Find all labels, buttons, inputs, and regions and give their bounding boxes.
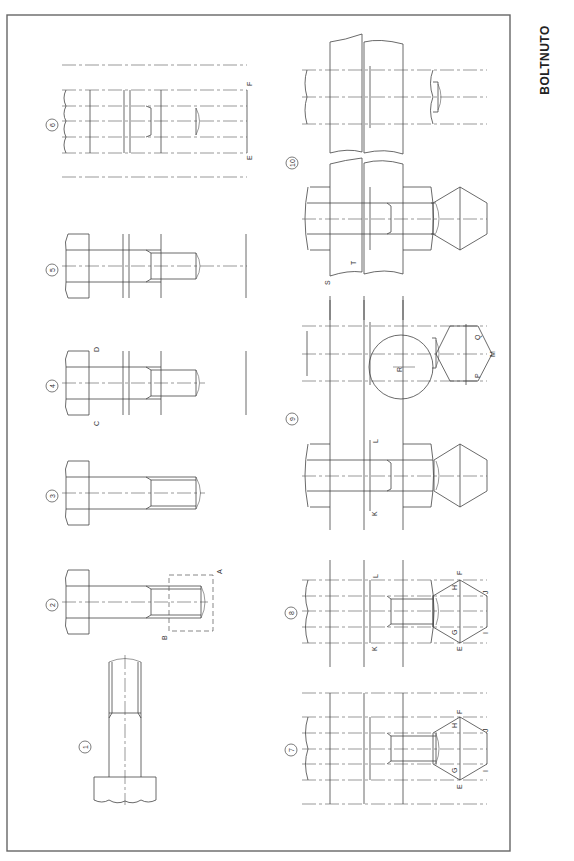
figure-3: 3 — [46, 461, 205, 525]
figure-1: 1 — [79, 655, 156, 805]
svg-text:K: K — [371, 646, 378, 651]
svg-text:M: M — [489, 351, 496, 357]
svg-text:P: P — [474, 373, 481, 378]
drawing-title-text: BOLTNUTO — [538, 25, 552, 95]
svg-text:E: E — [456, 784, 463, 789]
svg-text:I: I — [482, 632, 489, 634]
figure-9-assembly: L K — [302, 420, 487, 530]
svg-text:5: 5 — [49, 268, 56, 272]
figure-8: 8 L K F E H G J I — [285, 560, 489, 667]
svg-text:F: F — [246, 82, 253, 86]
svg-text:J: J — [482, 591, 489, 595]
svg-text:I: I — [482, 770, 489, 772]
svg-text:Q: Q — [474, 334, 482, 340]
svg-text:H: H — [451, 585, 458, 590]
svg-text:G: G — [451, 630, 458, 635]
drawing-sheet: .ln{stroke:#444;stroke-width:0.8;fill:no… — [0, 0, 574, 861]
svg-text:7: 7 — [288, 748, 295, 752]
svg-text:6: 6 — [49, 123, 56, 127]
svg-text:H: H — [451, 723, 458, 728]
svg-text:L: L — [372, 574, 379, 578]
figure-7: 7 F E H G J I — [285, 693, 489, 804]
svg-text:S: S — [324, 280, 331, 285]
svg-text:E: E — [456, 646, 463, 651]
figure-4: 4 D C — [46, 347, 246, 426]
svg-text:C: C — [93, 421, 100, 426]
svg-text:D: D — [93, 347, 100, 352]
svg-text:F: F — [456, 710, 463, 714]
svg-text:B: B — [161, 635, 168, 640]
drawing-frame — [7, 15, 510, 851]
drawing-title: BOLTNUTO — [534, 20, 556, 100]
svg-text:3: 3 — [49, 494, 56, 498]
svg-text:2: 2 — [49, 603, 56, 607]
svg-text:4: 4 — [49, 384, 56, 388]
detail-box-ab — [169, 575, 213, 631]
figure-9: 9 R Q M P — [286, 300, 496, 425]
figure-5: 5 — [46, 234, 247, 298]
svg-text:L: L — [372, 439, 379, 443]
svg-text:10: 10 — [289, 159, 296, 167]
svg-text:F: F — [456, 571, 463, 575]
svg-text:9: 9 — [289, 417, 296, 421]
svg-text:8: 8 — [288, 611, 295, 615]
svg-text:A: A — [216, 569, 223, 574]
svg-text:J: J — [482, 729, 489, 733]
svg-text:K: K — [371, 511, 378, 516]
figure-10: 10 T S — [286, 34, 487, 320]
figure-6: 6 F E — [46, 65, 253, 177]
svg-text:R: R — [396, 367, 403, 372]
svg-text:T: T — [350, 260, 357, 265]
svg-text:G: G — [451, 768, 458, 773]
svg-text:E: E — [246, 155, 253, 160]
figure-2: A B 2 — [46, 569, 223, 640]
svg-text:1: 1 — [82, 745, 89, 749]
